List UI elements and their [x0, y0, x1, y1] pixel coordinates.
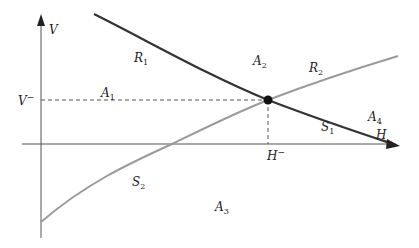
y-axis-label: V	[49, 23, 59, 37]
v-axis-arrow-icon	[37, 14, 45, 26]
curve-r2-s2	[41, 56, 398, 222]
v-minus-label: V−	[18, 92, 34, 108]
region-label-a3: A3	[214, 200, 229, 216]
region-label-a4: A4	[367, 110, 382, 126]
curve-label-r2: R2	[308, 61, 323, 77]
curve-label-r1: R1	[133, 51, 148, 67]
curve-label-s2: S2	[132, 175, 145, 191]
curve-r1-s1	[94, 14, 396, 145]
x-axis-label: H	[375, 128, 387, 142]
diagram-canvas: V H V− H− R1 S1 R2 S2 A1 A2 A3 A4	[0, 0, 419, 248]
equilibrium-point	[264, 96, 273, 105]
h-axis-arrow-icon	[386, 139, 400, 149]
region-label-a2: A2	[252, 54, 267, 70]
region-label-a1: A1	[100, 86, 115, 102]
h-minus-label: H−	[266, 147, 285, 163]
